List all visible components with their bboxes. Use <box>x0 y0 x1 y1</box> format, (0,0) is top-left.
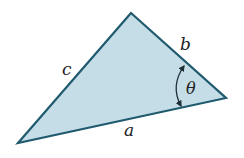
triangle-shape <box>18 13 226 143</box>
side-label-b: b <box>180 34 191 54</box>
triangle-diagram: c b a θ <box>0 0 244 158</box>
angle-label-theta: θ <box>186 79 196 98</box>
side-label-a: a <box>124 120 134 140</box>
side-label-c: c <box>62 59 72 79</box>
